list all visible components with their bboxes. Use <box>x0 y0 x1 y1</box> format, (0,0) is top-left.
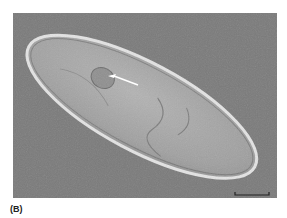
micrograph-svg <box>13 13 277 198</box>
panel-label: (B) <box>10 204 23 214</box>
micrograph-image <box>13 13 277 198</box>
grain-overlay <box>13 13 277 198</box>
